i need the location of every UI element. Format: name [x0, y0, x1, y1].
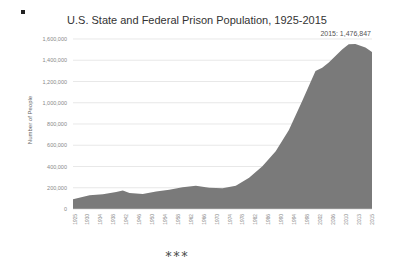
y-tick-label: 1,000,000 — [43, 100, 67, 106]
y-tick-label: 1,600,000 — [43, 36, 67, 42]
y-tick-label: 600,000 — [47, 142, 67, 148]
area-series — [73, 44, 372, 209]
x-tick-label: 1974 — [228, 214, 233, 225]
x-tick-label: 1954 — [163, 214, 168, 225]
x-tick-label: 2015 — [370, 214, 375, 225]
x-tick-label: 2002 — [318, 214, 323, 225]
x-tick-label: 2010 — [344, 214, 349, 225]
y-tick-label: 1,200,000 — [43, 79, 67, 85]
x-tick-label: 1962 — [189, 214, 194, 225]
x-tick-label: 1946 — [137, 214, 142, 225]
x-tick-label: 1982 — [253, 214, 258, 225]
annotation-2015: 2015: 1,476,847 — [320, 30, 371, 37]
x-tick-label: 1925 — [73, 214, 78, 225]
x-tick-label: 2013 — [357, 214, 362, 225]
x-tick-label: 1994 — [292, 214, 297, 225]
x-tick-label: 1942 — [124, 214, 129, 225]
x-tick-label: 1966 — [202, 214, 207, 225]
x-tick-label: 1934 — [98, 214, 103, 225]
x-tick-label: 1978 — [240, 214, 245, 225]
y-tick-label: 1,400,000 — [43, 57, 67, 63]
x-tick-label: 1970 — [215, 214, 220, 225]
x-tick-label: 1930 — [85, 214, 90, 225]
x-tick-label: 1938 — [111, 214, 116, 225]
x-tick-label: 1950 — [150, 214, 155, 225]
area-chart: 0200,000400,000600,000800,0001,000,0001,… — [0, 0, 394, 268]
y-tick-label: 200,000 — [47, 185, 67, 191]
y-tick-label: 0 — [64, 206, 67, 212]
y-tick-label: 800,000 — [47, 121, 67, 127]
x-tick-label: 1998 — [305, 214, 310, 225]
y-tick-label: 400,000 — [47, 164, 67, 170]
x-tick-label: 2006 — [331, 214, 336, 225]
x-tick-label: 1986 — [266, 214, 271, 225]
section-separator: *** — [0, 250, 355, 264]
x-tick-label: 1958 — [176, 214, 181, 225]
x-tick-label: 1990 — [279, 214, 284, 225]
